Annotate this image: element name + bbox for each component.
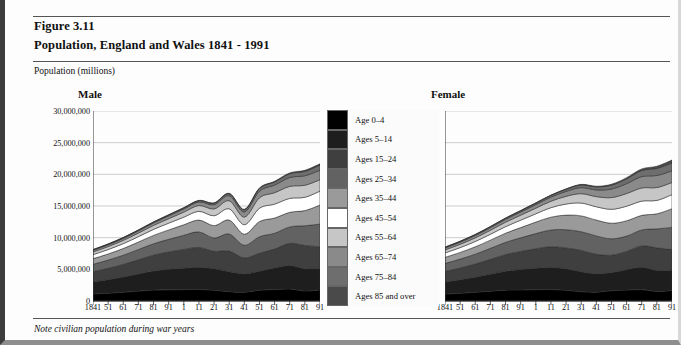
male-plot-area [93, 111, 320, 306]
legend-swatch-icon [327, 130, 348, 150]
chart-legend: Age 0–4Ages 5–14Ages 15–24Ages 25–34Ages… [327, 110, 439, 306]
legend-item: Ages 5–14 [327, 130, 439, 150]
legend-item: Ages 35–44 [327, 188, 439, 208]
x-tick-label-female: 81 [653, 303, 661, 312]
y-tick-label: 5,000,000 [30, 265, 90, 274]
x-tick-label-female: 11 [547, 303, 555, 312]
x-tick-label-male: 21 [210, 303, 218, 312]
figure-title: Population, England and Wales 1841 - 199… [34, 38, 270, 53]
x-tick-label-female: 61 [623, 303, 631, 312]
figure-note: Note civilian population during war year… [34, 324, 194, 334]
legend-swatch-icon [327, 169, 348, 189]
x-axis-labels-female: 184151617181911112131415161718191 [445, 303, 672, 317]
x-tick-label-female: 81 [501, 303, 509, 312]
legend-item: Ages 15–24 [327, 149, 439, 169]
panel-title-male: Male [78, 88, 102, 100]
x-tick-label-male: 11 [195, 303, 203, 312]
legend-swatch-icon [327, 228, 348, 248]
legend-swatch-icon [327, 149, 348, 169]
y-tick-label: 25,000,000 [30, 138, 90, 147]
legend-item: Ages 55–64 [327, 228, 439, 248]
legend-swatch-icon [327, 110, 348, 130]
y-tick-label: 15,000,000 [30, 202, 90, 211]
x-tick-label-male: 41 [240, 303, 248, 312]
legend-label: Ages 65–74 [355, 252, 396, 262]
legend-label: Ages 85 and over [355, 291, 415, 301]
x-tick-label-female: 1 [534, 303, 538, 312]
y-axis-unit-label: Population (millions) [34, 66, 115, 76]
x-tick-label-female: 41 [592, 303, 600, 312]
legend-label: Age 0–4 [355, 115, 384, 125]
legend-label: Ages 35–44 [355, 193, 396, 203]
y-tick-label: 0 [30, 297, 90, 306]
x-tick-label-male: 1 [182, 303, 186, 312]
x-tick-label-male: 71 [286, 303, 294, 312]
x-tick-label-male: 1841 [85, 303, 101, 312]
y-tick-label: 10,000,000 [30, 233, 90, 242]
x-tick-label-male: 51 [104, 303, 112, 312]
header-rule-top [33, 16, 670, 17]
legend-item: Ages 75–84 [327, 267, 439, 287]
x-tick-label-male: 51 [255, 303, 263, 312]
panel-title-female: Female [431, 88, 465, 100]
legend-swatch-icon [327, 267, 348, 287]
footer-rule [33, 318, 670, 319]
chart-male [93, 111, 320, 301]
legend-swatch-icon [327, 286, 348, 306]
legend-label: Ages 5–14 [355, 134, 392, 144]
legend-item: Ages 45–54 [327, 208, 439, 228]
figure-number: Figure 3.11 [34, 19, 95, 34]
legend-swatch-icon [327, 188, 348, 208]
legend-item: Ages 25–34 [327, 169, 439, 189]
x-tick-label-male: 31 [225, 303, 233, 312]
legend-label: Ages 75–84 [355, 272, 396, 282]
x-tick-label-male: 81 [301, 303, 309, 312]
x-tick-label-male: 91 [165, 303, 173, 312]
female-plot-area [445, 111, 672, 306]
x-tick-label-female: 31 [577, 303, 585, 312]
y-axis-labels: 05,000,00010,000,00015,000,00020,000,000… [30, 111, 92, 301]
x-tick-label-male: 61 [271, 303, 279, 312]
legend-item: Age 0–4 [327, 110, 439, 130]
x-tick-label-male: 91 [316, 303, 324, 312]
legend-label: Ages 55–64 [355, 232, 396, 242]
x-tick-label-male: 61 [119, 303, 127, 312]
y-tick-label: 30,000,000 [30, 107, 90, 116]
x-tick-label-female: 1841 [437, 303, 453, 312]
legend-label: Ages 25–34 [355, 174, 396, 184]
x-tick-label-female: 71 [638, 303, 646, 312]
figure-page: Figure 3.11 Population, England and Wale… [0, 0, 681, 345]
x-tick-label-male: 81 [149, 303, 157, 312]
x-tick-label-male: 71 [134, 303, 142, 312]
x-tick-label-female: 71 [486, 303, 494, 312]
header-rule-middle [33, 61, 670, 62]
legend-swatch-icon [327, 247, 348, 267]
x-axis-labels-male: 184151617181911112131415161718191 [93, 303, 320, 317]
legend-swatch-icon [327, 208, 348, 228]
legend-label: Ages 15–24 [355, 154, 396, 164]
legend-item: Ages 85 and over [327, 286, 439, 306]
x-tick-label-female: 51 [456, 303, 464, 312]
x-tick-label-female: 61 [471, 303, 479, 312]
chart-female [445, 111, 672, 301]
legend-label: Ages 45–54 [355, 213, 396, 223]
x-tick-label-female: 51 [607, 303, 615, 312]
x-tick-label-female: 21 [562, 303, 570, 312]
legend-item: Ages 65–74 [327, 247, 439, 267]
x-tick-label-female: 91 [668, 303, 676, 312]
y-tick-label: 20,000,000 [30, 170, 90, 179]
x-tick-label-female: 91 [517, 303, 525, 312]
